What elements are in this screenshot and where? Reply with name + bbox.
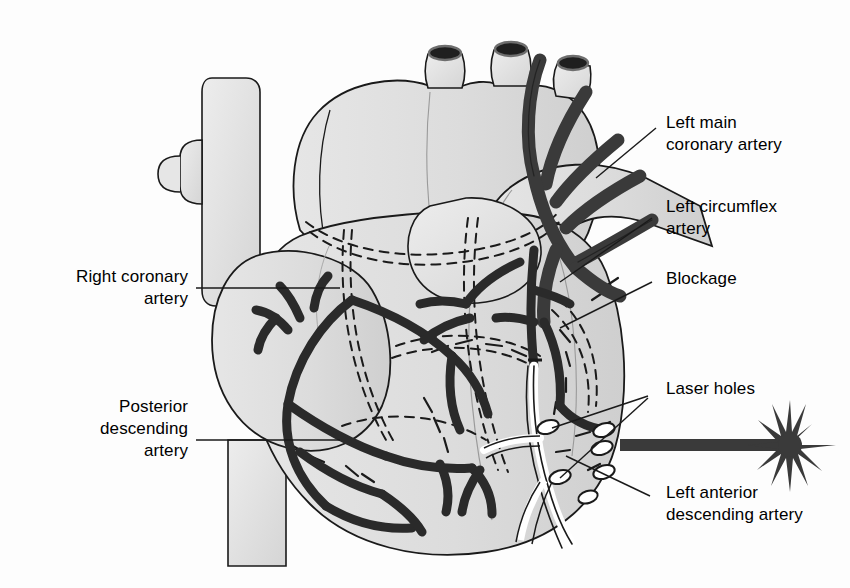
label-right-coronary-artery: Right coronary artery — [20, 266, 188, 310]
label-left-anterior-descending-artery: Left anterior descending artery — [666, 482, 803, 526]
label-left-main-coronary-artery: Left main coronary artery — [666, 112, 782, 156]
diagram-canvas: Left main coronary artery Left circumfle… — [0, 0, 850, 588]
label-laser-holes: Laser holes — [666, 378, 755, 400]
label-left-circumflex-artery: Left circumflex artery — [666, 196, 777, 240]
laser-burst — [748, 400, 836, 492]
label-blockage: Blockage — [666, 268, 737, 290]
lad-patent-path — [531, 250, 534, 366]
label-posterior-descending-artery: Posterior descending artery — [20, 396, 188, 462]
